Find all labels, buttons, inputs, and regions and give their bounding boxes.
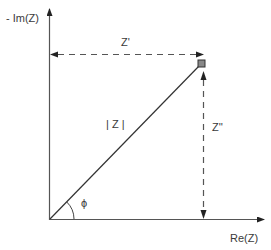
z-real-arrow-right-icon <box>196 52 204 58</box>
magnitude-vector <box>50 65 200 219</box>
x-axis-label: Re(Z) <box>230 233 258 244</box>
z-real-arrow-left-icon <box>50 52 58 58</box>
z-imag-arrow-up-icon <box>201 71 207 80</box>
phase-angle-label: ϕ <box>81 198 87 209</box>
z-real-label: Z' <box>121 37 130 48</box>
phase-angle-arc <box>67 202 74 219</box>
impedance-point <box>198 60 205 67</box>
diagram-canvas <box>0 0 271 250</box>
y-axis-label: - Im(Z) <box>6 13 39 24</box>
magnitude-label: | Z | <box>106 119 125 130</box>
z-imag-arrow-down-icon <box>201 210 207 219</box>
impedance-diagram: - Im(Z) Re(Z) Z' Z'' | Z | ϕ <box>0 0 271 250</box>
z-imag-label: Z'' <box>212 122 223 133</box>
